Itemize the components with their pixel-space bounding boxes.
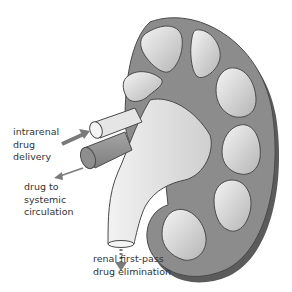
ureter-opening	[108, 241, 134, 248]
intrarenal-delivery-arrow	[62, 129, 90, 144]
systemic-circulation-label: drug to systemic circulation	[24, 181, 73, 219]
systemic-circulation-arrow	[54, 168, 83, 180]
renal-elimination-label: renal first-pass drug elimination	[93, 253, 171, 278]
intrarenal-delivery-label: intrarenal drug delivery	[13, 126, 59, 164]
